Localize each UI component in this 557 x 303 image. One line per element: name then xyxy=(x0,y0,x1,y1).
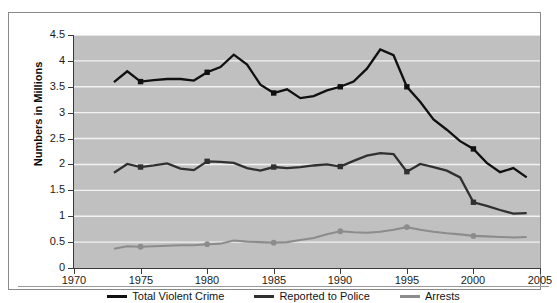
data-point-marker xyxy=(204,241,210,247)
data-point-marker xyxy=(271,164,276,169)
y-axis-tick xyxy=(68,113,74,114)
legend-item[interactable]: Reported to Police xyxy=(254,291,370,302)
x-axis-tick-label: 1975 xyxy=(118,275,164,286)
y-axis-tick-label: 0.5 xyxy=(9,236,65,247)
y-axis-tick-label: 0 xyxy=(9,262,65,273)
y-axis-tick xyxy=(68,190,74,191)
legend-line-icon xyxy=(400,295,420,298)
data-point-marker xyxy=(271,90,276,95)
data-point-marker xyxy=(471,233,477,239)
x-axis-tick-label: 1980 xyxy=(184,275,230,286)
data-point-marker xyxy=(271,240,277,246)
chart-frame: 00.511.522.533.544.5 1970197519801985199… xyxy=(8,12,541,290)
data-point-marker xyxy=(471,146,476,151)
chart-legend: Total Violent CrimeReported to PoliceArr… xyxy=(17,289,550,303)
x-axis-tick-label: 1970 xyxy=(51,275,97,286)
y-axis-tick xyxy=(68,216,74,217)
data-point-marker xyxy=(404,84,409,89)
y-axis-tick-label: 1 xyxy=(9,210,65,221)
legend-item-label: Total Violent Crime xyxy=(132,291,224,302)
data-point-marker xyxy=(471,200,476,205)
y-axis-tick xyxy=(68,139,74,140)
series-line xyxy=(114,50,527,178)
data-point-marker xyxy=(404,224,410,230)
series-line xyxy=(114,227,527,249)
x-axis-tick-label: 2005 xyxy=(517,275,557,286)
data-point-marker xyxy=(138,244,144,250)
legend-line-icon xyxy=(254,295,274,298)
y-axis-tick xyxy=(68,35,74,36)
legend-item[interactable]: Arrests xyxy=(400,291,460,302)
legend-divider xyxy=(18,286,549,287)
legend-item-label: Reported to Police xyxy=(279,291,370,302)
data-point-marker xyxy=(338,84,343,89)
x-axis-tick-label: 2000 xyxy=(450,275,496,286)
data-point-marker xyxy=(204,70,209,75)
y-axis-line xyxy=(73,35,74,269)
x-axis-tick-label: 1990 xyxy=(317,275,363,286)
legend-line-icon xyxy=(107,295,127,298)
legend-item[interactable]: Total Violent Crime xyxy=(107,291,224,302)
plot-area xyxy=(74,35,540,268)
y-axis-tick xyxy=(68,61,74,62)
x-axis-line xyxy=(73,268,541,269)
data-point-marker xyxy=(204,159,209,164)
y-axis-tick xyxy=(68,87,74,88)
legend-item-label: Arrests xyxy=(425,291,460,302)
data-point-marker xyxy=(338,164,343,169)
x-axis-tick-label: 1995 xyxy=(384,275,430,286)
y-axis-tick xyxy=(68,164,74,165)
data-point-marker xyxy=(404,169,409,174)
y-axis-title: Numbers in Millions xyxy=(32,39,44,189)
x-axis-tick-label: 1985 xyxy=(251,275,297,286)
series-line xyxy=(114,153,527,214)
plot-canvas xyxy=(74,35,540,268)
y-axis-tick xyxy=(68,242,74,243)
data-point-marker xyxy=(337,228,343,234)
data-point-marker xyxy=(138,164,143,169)
data-point-marker xyxy=(138,79,143,84)
